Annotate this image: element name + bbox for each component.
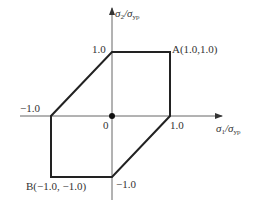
tick-x-pos: 1.0: [170, 120, 184, 131]
x-axis-label: σ1/σyp: [216, 123, 240, 136]
point-b-label: B(−1.0, −1.0): [26, 181, 86, 192]
point-a-label: A(1.0,1.0): [172, 44, 218, 55]
origin-dot: [109, 113, 115, 119]
yield-locus-diagram: σ2/σyp σ1/σyp 1.0 −1.0 0 1.0 −1.0 A(1.0,…: [0, 0, 260, 212]
tick-y-pos: 1.0: [92, 44, 106, 55]
origin-label: 0: [103, 120, 109, 131]
tick-x-neg: −1.0: [20, 103, 40, 114]
tick-y-neg: −1.0: [116, 179, 136, 190]
y-axis-label: σ2/σyp: [115, 8, 139, 21]
